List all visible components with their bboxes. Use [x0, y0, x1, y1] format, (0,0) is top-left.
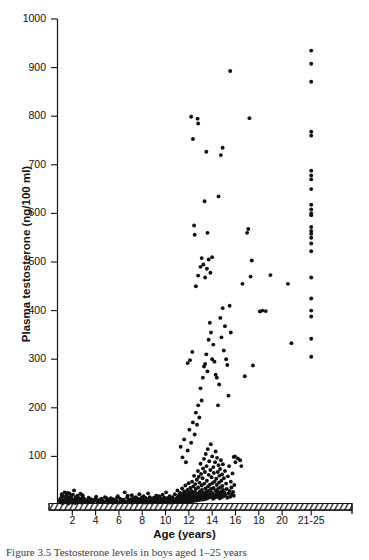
data-point: [232, 494, 236, 498]
data-point: [90, 500, 94, 504]
data-point: [217, 463, 221, 467]
data-point: [200, 256, 204, 260]
data-point: [210, 255, 214, 259]
data-point: [309, 169, 313, 173]
data-point: [221, 146, 225, 150]
data-point: [71, 500, 75, 504]
data-point: [204, 452, 208, 456]
data-point: [205, 479, 209, 483]
data-point: [199, 386, 203, 390]
data-point: [87, 497, 91, 501]
data-point: [180, 455, 184, 459]
data-point: [157, 494, 161, 498]
data-point: [214, 477, 218, 481]
data-point: [234, 460, 238, 464]
data-point: [191, 137, 195, 141]
data-point: [204, 150, 208, 154]
data-point: [164, 490, 168, 494]
data-point: [219, 458, 223, 462]
data-point: [309, 297, 313, 301]
data-point: [188, 492, 192, 496]
data-point: [143, 496, 147, 500]
data-point: [183, 484, 187, 488]
y-tick-label: 800: [6, 109, 46, 121]
data-point: [228, 304, 232, 308]
data-point: [209, 331, 213, 335]
data-point: [309, 309, 313, 313]
data-point: [238, 458, 242, 462]
data-point: [78, 499, 82, 503]
data-point: [60, 494, 64, 498]
data-point: [309, 242, 313, 246]
data-point: [264, 309, 268, 313]
data-point: [208, 321, 212, 325]
data-point: [201, 376, 205, 380]
data-point: [101, 500, 105, 504]
y-tick-label: 100: [6, 449, 46, 461]
data-point: [196, 486, 200, 490]
x-tick-label: 21-25: [291, 514, 331, 526]
data-point: [201, 262, 205, 266]
data-point: [174, 500, 178, 504]
data-point: [206, 231, 210, 235]
data-point: [206, 369, 210, 373]
data-point: [213, 360, 217, 364]
data-point: [105, 496, 109, 500]
data-point: [185, 499, 189, 503]
data-point: [249, 275, 253, 279]
data-point: [220, 472, 224, 476]
data-point: [182, 437, 186, 441]
y-axis-title: Plasma testosterone (ng/100 ml): [20, 144, 32, 364]
data-point: [181, 497, 185, 501]
data-point: [199, 472, 203, 476]
data-point: [219, 153, 223, 157]
data-point: [309, 232, 313, 236]
data-point: [222, 349, 226, 353]
data-point: [187, 481, 191, 485]
data-point: [309, 130, 313, 134]
data-point: [309, 134, 313, 138]
data-point: [227, 394, 231, 398]
data-point: [74, 496, 78, 500]
data-point: [246, 227, 250, 231]
data-point: [210, 475, 214, 479]
data-point: [309, 62, 313, 66]
data-point: [309, 177, 313, 181]
data-point: [202, 457, 206, 461]
y-tick-label: 1000: [6, 12, 46, 24]
data-point: [191, 420, 195, 424]
data-point: [150, 497, 154, 501]
data-point: [258, 310, 262, 314]
data-point: [223, 324, 227, 328]
data-point: [196, 117, 200, 121]
data-point: [210, 454, 214, 458]
data-point: [204, 352, 208, 356]
data-point: [309, 337, 313, 341]
data-point: [203, 199, 207, 203]
data-point: [243, 374, 247, 378]
data-point: [68, 497, 72, 501]
data-point: [203, 470, 207, 474]
data-point: [196, 403, 200, 407]
data-point: [309, 276, 313, 280]
data-point: [309, 314, 313, 318]
data-point: [94, 495, 98, 499]
data-point: [232, 483, 236, 487]
data-point: [309, 203, 313, 207]
data-point-group: [58, 49, 314, 506]
data-point: [229, 480, 233, 484]
data-point: [126, 494, 130, 498]
data-point: [208, 271, 212, 275]
data-point: [192, 224, 196, 228]
data-point: [309, 187, 313, 191]
data-point: [119, 498, 123, 502]
data-point: [220, 335, 224, 339]
data-point: [179, 445, 183, 449]
data-point: [289, 341, 293, 345]
data-point: [167, 496, 171, 500]
data-point: [153, 500, 157, 504]
data-point: [193, 433, 197, 437]
data-point: [309, 49, 313, 53]
data-point: [228, 489, 232, 493]
data-point: [108, 499, 112, 503]
